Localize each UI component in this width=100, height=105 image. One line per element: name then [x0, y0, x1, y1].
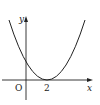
parabola-curve	[9, 20, 85, 80]
x-axis-arrow-icon	[87, 78, 93, 82]
y-axis-label: y	[18, 14, 25, 24]
x-axis-label: x	[87, 83, 92, 93]
origin-label: O	[15, 83, 22, 93]
y-axis-arrow-icon	[24, 16, 28, 22]
x-tick-label-2: 2	[44, 83, 50, 93]
parabola-diagram: y x O 2	[0, 0, 100, 105]
